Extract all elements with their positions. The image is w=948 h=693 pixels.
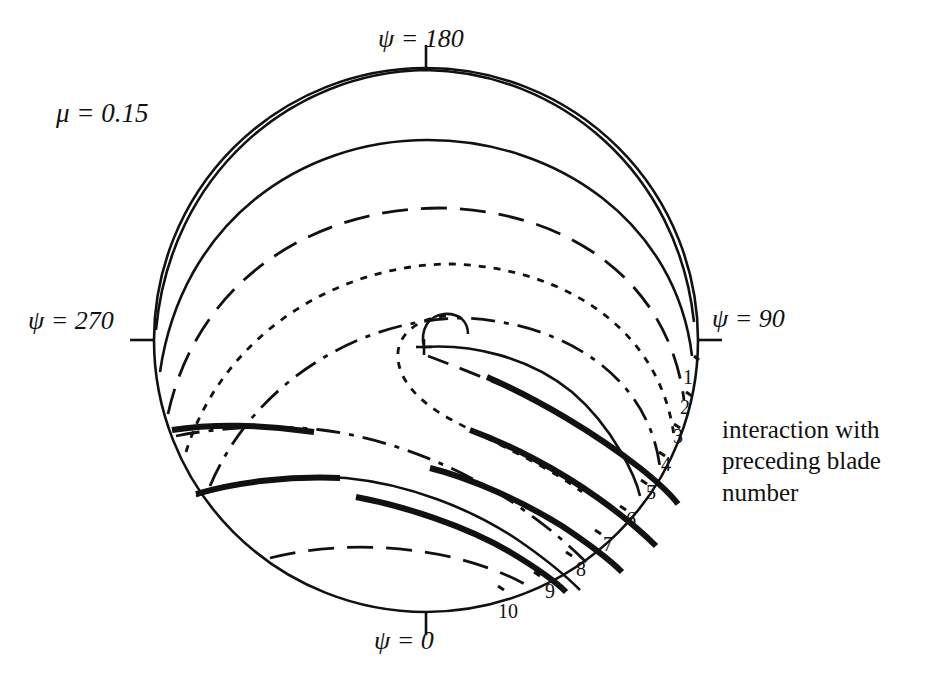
interaction-number-5: 5: [646, 481, 656, 504]
azimuth-label-0: ψ = 0: [374, 626, 434, 656]
wake-trace-dashdot-upper: [210, 318, 660, 486]
caption-line-1: interaction with: [722, 414, 942, 445]
wake-trace-dashdot-lower: [176, 427, 586, 562]
rotor-disk-boundary: [154, 68, 698, 612]
azimuth-label-90: ψ = 90: [712, 304, 785, 334]
azimuth-label-180: ψ = 180: [378, 24, 464, 54]
interaction-number-4: 4: [661, 453, 671, 476]
azimuth-label-270: ψ = 270: [28, 306, 114, 336]
wake-trace-outer-solid: [156, 70, 694, 330]
interaction-number-9: 9: [545, 580, 555, 603]
wake-trace-second-solid: [160, 140, 692, 372]
wake-trace-thick-3: [430, 468, 622, 572]
interaction-number-2: 2: [680, 396, 690, 419]
interaction-number-3: 3: [673, 425, 683, 448]
wake-trace-dotted-inner-loop: [398, 316, 582, 492]
caption-line-3: number: [722, 477, 942, 508]
wake-trace-bottom-dashed: [270, 547, 528, 586]
interaction-number-6: 6: [626, 508, 636, 531]
interaction-number-7: 7: [603, 533, 613, 556]
wake-trace-dashed-upper: [168, 208, 684, 414]
interaction-caption: interaction with preceding blade number: [722, 414, 942, 508]
vortex-origin-marker: [416, 339, 432, 355]
interaction-number-1: 1: [683, 366, 693, 389]
interaction-number-8: 8: [576, 558, 586, 581]
caption-line-2: preceding blade: [722, 445, 942, 476]
figure-canvas: μ = 0.15 ψ = 180 ψ = 90 ψ = 270 ψ = 0 in…: [0, 0, 948, 693]
interaction-number-10: 10: [498, 600, 518, 623]
wake-trace-lower-solid: [196, 477, 580, 590]
advance-ratio-label: μ = 0.15: [56, 98, 149, 129]
